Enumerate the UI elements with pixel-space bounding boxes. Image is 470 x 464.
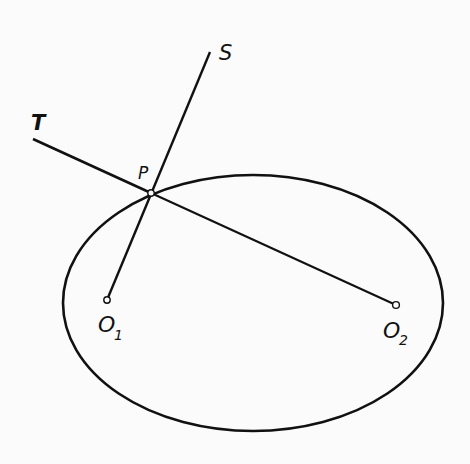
label-T: T [31, 111, 47, 135]
label-O1: O [98, 312, 115, 337]
ellipse-diagram: S T P O 1 O 2 [0, 0, 470, 464]
label-O1-subscript: 1 [114, 327, 123, 343]
label-O2: O [383, 318, 400, 343]
label-S: S [219, 41, 232, 65]
point-O1 [104, 297, 110, 303]
point-P [148, 190, 154, 196]
label-P: P [138, 163, 149, 183]
point-O2 [393, 302, 400, 309]
label-O2-subscript: 2 [399, 332, 408, 348]
line-T-P [33, 139, 151, 193]
ellipse-curve [63, 175, 443, 431]
line-O1-S [107, 52, 210, 300]
line-P-O2 [151, 193, 396, 305]
diagram-canvas: S T P O 1 O 2 [0, 0, 470, 464]
